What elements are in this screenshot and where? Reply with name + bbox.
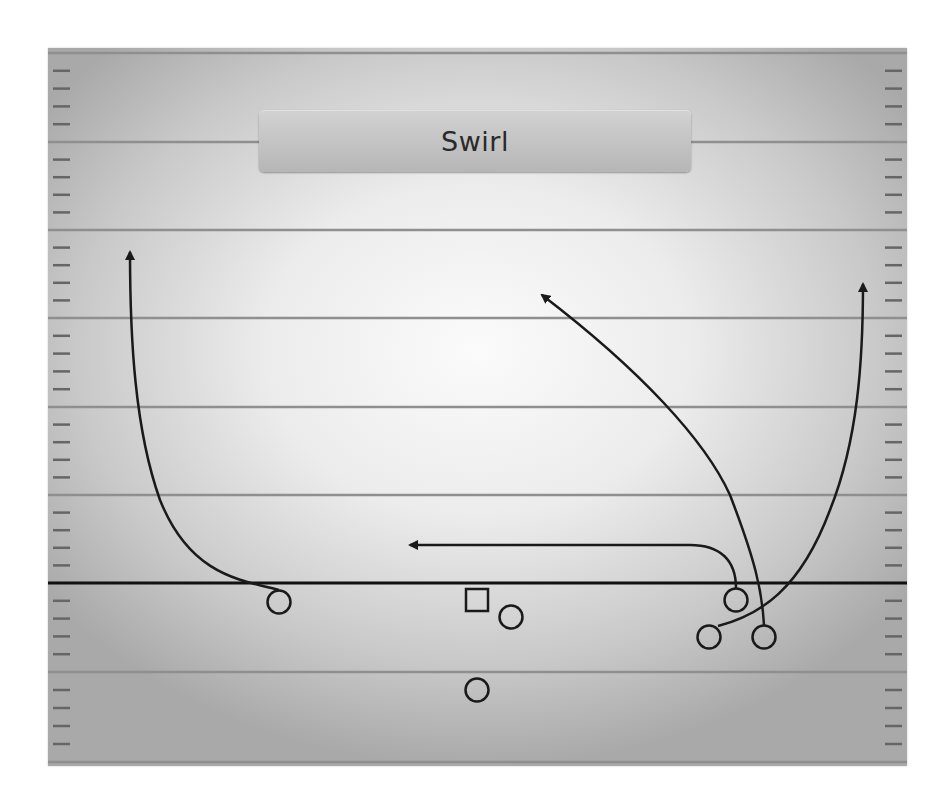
players bbox=[268, 589, 776, 702]
outside-wing-icon bbox=[753, 626, 776, 649]
inside-wing-icon bbox=[698, 626, 721, 649]
running-back-icon bbox=[466, 679, 489, 702]
slot-receiver-icon bbox=[725, 589, 748, 612]
play-title-box: Swirl bbox=[259, 110, 691, 172]
post-route bbox=[542, 295, 764, 625]
guard-circle-icon bbox=[500, 606, 523, 629]
left-fade-route bbox=[130, 252, 279, 590]
left-receiver-icon bbox=[268, 591, 291, 614]
center-square-icon bbox=[466, 589, 488, 611]
routes bbox=[130, 252, 863, 626]
swirl-route bbox=[718, 284, 863, 626]
play-title: Swirl bbox=[441, 126, 509, 157]
